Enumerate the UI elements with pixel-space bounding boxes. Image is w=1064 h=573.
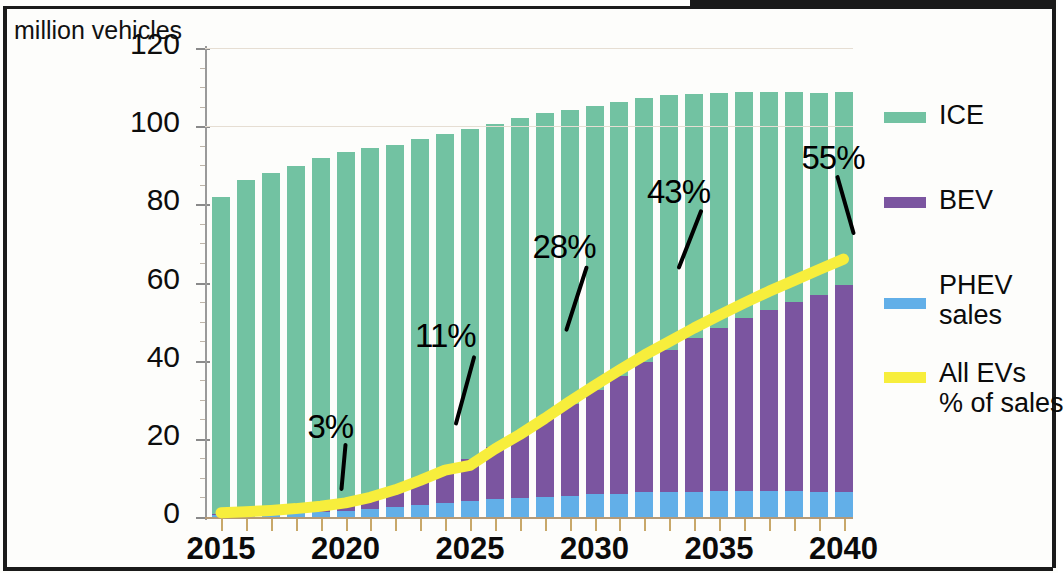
- x-axis-tick-mark: [595, 519, 597, 531]
- x-axis-tick-label: 2030: [560, 531, 629, 567]
- x-axis-tick-mark: [794, 519, 796, 531]
- x-axis-tick-mark: [619, 519, 621, 531]
- x-axis-tick-mark: [819, 519, 821, 531]
- scan-border-bottom: [3, 567, 1053, 571]
- legend-label-evline: All EVs% of sales: [939, 358, 1064, 418]
- legend-swatch-phev: [884, 298, 926, 309]
- x-axis-tick-mark: [669, 519, 671, 531]
- x-axis-tick-mark: [844, 519, 846, 531]
- y-axis-tick-label: 20: [0, 418, 194, 452]
- x-axis-tick-mark: [470, 519, 472, 531]
- x-axis-tick-mark: [769, 519, 771, 531]
- ev-share-line: [205, 48, 850, 518]
- x-axis-tick-mark: [495, 519, 497, 531]
- legend-label-phev: PHEVsales: [939, 270, 1013, 330]
- legend-label-line: sales: [939, 300, 1013, 330]
- y-axis-tick-label: 100: [0, 105, 194, 139]
- legend-swatch-ice: [884, 112, 926, 123]
- legend-item-evline: All EVs% of sales: [884, 358, 1054, 438]
- x-axis-tick-mark: [570, 519, 572, 531]
- legend-label-line: All EVs: [939, 358, 1064, 388]
- x-axis-tick-mark: [694, 519, 696, 531]
- legend-label-line: ICE: [939, 100, 984, 130]
- x-axis-tick-mark: [370, 519, 372, 531]
- x-axis-tick-label: 2020: [311, 531, 380, 567]
- y-axis-tick-label: 120: [0, 27, 194, 61]
- annotation-label-43pct: 43%: [647, 173, 710, 211]
- x-axis-tick-mark: [296, 519, 298, 531]
- x-axis-tick-mark: [271, 519, 273, 531]
- x-axis-tick-mark: [545, 519, 547, 531]
- x-axis-tick-mark: [719, 519, 721, 531]
- annotation-label-55pct: 55%: [802, 139, 865, 177]
- x-axis-tick-mark: [520, 519, 522, 531]
- x-axis-tick-mark: [221, 519, 223, 531]
- legend-label-ice: ICE: [939, 100, 984, 130]
- annotation-label-3pct: 3%: [308, 408, 354, 446]
- gridline: [205, 126, 853, 127]
- legend-label-line: % of sales: [939, 388, 1064, 418]
- legend-item-ice: ICE: [884, 100, 1054, 180]
- plot-area: [205, 48, 850, 518]
- ev-share-line-path: [221, 259, 844, 513]
- x-axis-tick-label: 2040: [809, 531, 878, 567]
- legend-label-bev: BEV: [939, 185, 993, 215]
- legend-swatch-evline: [884, 372, 926, 383]
- scan-border-notch-edge: [690, 0, 694, 9]
- y-axis-tick-label: 40: [0, 340, 194, 374]
- legend-swatch-bev: [884, 197, 926, 208]
- x-axis-tick-mark: [744, 519, 746, 531]
- annotation-label-11pct: 11%: [415, 317, 476, 355]
- scan-border-notch: [690, 0, 1056, 7]
- y-axis-tick-label: 60: [0, 262, 194, 296]
- annotation-label-28pct: 28%: [533, 228, 596, 266]
- legend-item-phev: PHEVsales: [884, 270, 1054, 350]
- x-axis-tick-mark: [346, 519, 348, 531]
- y-axis-tick-label: 0: [0, 496, 194, 530]
- x-axis-tick-label: 2025: [436, 531, 505, 567]
- x-axis-tick-mark: [321, 519, 323, 531]
- y-axis-tick-label: 80: [0, 183, 194, 217]
- x-axis-tick-mark: [445, 519, 447, 531]
- legend-item-bev: BEV: [884, 185, 1054, 265]
- legend-label-line: PHEV: [939, 270, 1013, 300]
- x-axis-tick-label: 2035: [685, 531, 754, 567]
- x-axis-tick-mark: [644, 519, 646, 531]
- gridline: [205, 48, 853, 49]
- x-axis-tick-mark: [246, 519, 248, 531]
- x-axis-tick-mark: [395, 519, 397, 531]
- x-axis-tick-mark: [420, 519, 422, 531]
- legend-label-line: BEV: [939, 185, 993, 215]
- x-axis-tick-label: 2015: [187, 531, 256, 567]
